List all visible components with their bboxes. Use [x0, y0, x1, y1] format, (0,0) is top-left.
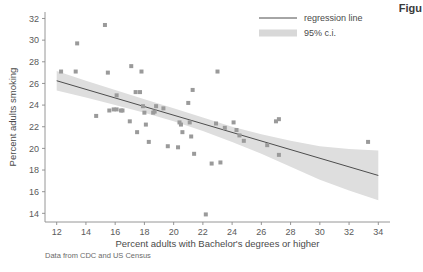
x-tick-label: 32: [344, 227, 354, 237]
data-point: [242, 139, 246, 143]
data-point: [142, 111, 146, 115]
figure-root: 121416182022242628303234 141618202224262…: [0, 0, 423, 272]
scatter-plot: 121416182022242628303234 141618202224262…: [0, 0, 423, 272]
data-point: [153, 110, 157, 114]
data-point: [223, 126, 227, 130]
y-tick-label: 18: [29, 165, 39, 175]
y-tick-label: 22: [29, 122, 39, 132]
data-point: [218, 160, 222, 164]
x-axis-title: Percent adults with Bachelor's degrees o…: [115, 238, 319, 249]
x-tick-label: 24: [227, 227, 237, 237]
y-tick-label: 24: [29, 100, 39, 110]
data-point: [189, 134, 193, 138]
figure-corner-label: Figu: [399, 2, 422, 14]
source-note: Data from CDC and US Census: [45, 251, 151, 260]
data-point: [186, 101, 190, 105]
data-point: [103, 23, 107, 27]
data-point: [59, 70, 63, 74]
data-point: [216, 70, 220, 74]
data-point: [74, 70, 78, 74]
data-point: [75, 41, 79, 45]
y-axis-title: Percent adults smoking: [7, 68, 18, 167]
data-point: [120, 109, 124, 113]
data-point: [107, 109, 111, 113]
data-point: [166, 144, 170, 148]
y-tick-label: 28: [29, 57, 39, 67]
x-tick-label: 18: [139, 227, 149, 237]
y-tick-label: 20: [29, 144, 39, 154]
data-point: [115, 93, 119, 97]
data-point: [147, 140, 151, 144]
data-point: [277, 153, 281, 157]
x-tick-label: 14: [81, 227, 91, 237]
plot-background: [0, 0, 423, 272]
data-point: [180, 130, 184, 134]
data-point: [139, 70, 143, 74]
y-tick-label: 26: [29, 79, 39, 89]
x-tick-label: 12: [52, 227, 62, 237]
legend-label: 95% c.i.: [304, 28, 336, 38]
x-tick-label: 28: [286, 227, 296, 237]
data-point: [188, 120, 192, 124]
x-tick-label: 26: [256, 227, 266, 237]
x-tick-label: 20: [169, 227, 179, 237]
data-point: [191, 88, 195, 92]
data-point: [237, 133, 241, 137]
data-point: [138, 90, 142, 94]
data-point: [144, 123, 148, 127]
legend-band-swatch: [259, 30, 297, 37]
y-tick-label: 16: [29, 187, 39, 197]
data-point: [176, 145, 180, 149]
data-point: [135, 130, 139, 134]
data-point: [154, 104, 158, 108]
y-tick-label: 14: [29, 209, 39, 219]
x-tick-label: 22: [198, 227, 208, 237]
data-point: [128, 119, 132, 123]
data-point: [115, 107, 119, 111]
x-tick-label: 34: [373, 227, 383, 237]
data-point: [106, 71, 110, 75]
data-point: [235, 128, 239, 132]
data-point: [161, 106, 165, 110]
data-point: [277, 117, 281, 121]
x-tick-label: 30: [315, 227, 325, 237]
data-point: [129, 64, 133, 68]
x-tick-label: 16: [110, 227, 120, 237]
data-point: [214, 121, 218, 125]
data-point: [204, 212, 208, 216]
y-tick-label: 30: [29, 35, 39, 45]
data-point: [265, 143, 269, 147]
data-point: [210, 162, 214, 166]
data-point: [179, 123, 183, 127]
data-point: [366, 140, 370, 144]
legend-label: regression line: [304, 13, 363, 23]
data-point: [232, 120, 236, 124]
data-point: [134, 90, 138, 94]
data-point: [94, 114, 98, 118]
data-point: [141, 104, 145, 108]
y-tick-label: 32: [29, 14, 39, 24]
data-point: [192, 152, 196, 156]
